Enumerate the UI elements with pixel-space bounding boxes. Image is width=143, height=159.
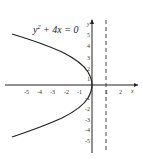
x-tick: -3 (50, 89, 55, 95)
x-tick: 1 (105, 89, 108, 95)
x-tick: -1 (77, 89, 82, 95)
y-tick: 5 (87, 32, 90, 38)
y-tick: -1 (85, 95, 90, 101)
x-axis-label: x (131, 88, 134, 94)
y-tick: 2 (87, 66, 90, 72)
x-tick: -5 (24, 89, 29, 95)
y-tick: 4 (87, 43, 90, 49)
equation-label: y2 + 4x = 0 (33, 24, 78, 35)
x-axis-arrow-icon (134, 83, 138, 87)
x-tick: -2 (64, 89, 69, 95)
y-axis-arrow-icon (90, 19, 94, 24)
y-tick: -3 (85, 117, 90, 123)
y-tick: 1 (87, 76, 90, 82)
y-tick: -4 (85, 127, 90, 133)
y-axis-label: y (87, 21, 90, 27)
y-tick: -5 (85, 138, 90, 144)
y-tick: 3 (87, 55, 90, 61)
x-tick: 2 (119, 89, 122, 95)
x-tick: -4 (37, 89, 42, 95)
y-tick: -2 (85, 106, 90, 112)
